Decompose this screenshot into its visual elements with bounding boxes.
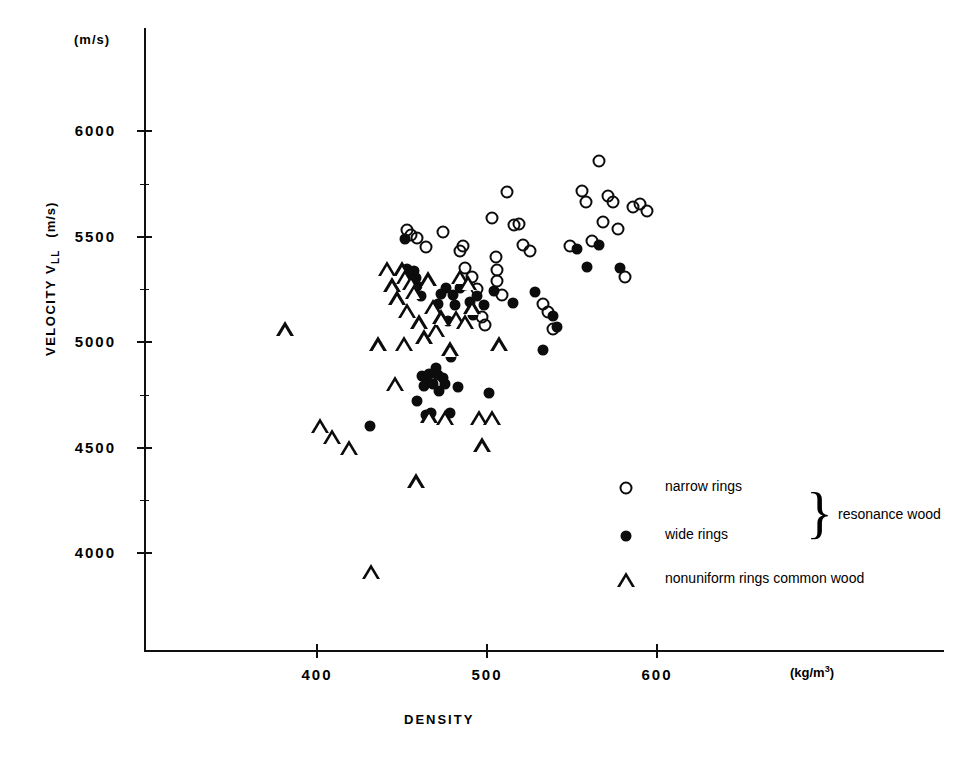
x-axis-line: [144, 650, 944, 652]
data-point-filled-circle: [582, 262, 593, 273]
legend: narrow rings wide rings nonuniform rings…: [620, 478, 950, 598]
data-point-filled-circle: [483, 387, 494, 398]
y-tick-4500: [137, 447, 152, 449]
data-point-open-circle: [436, 226, 449, 239]
data-point-filled-circle: [551, 322, 562, 333]
data-point-filled-circle: [364, 421, 375, 432]
x-axis-title: DENSITY: [404, 712, 474, 727]
data-point-filled-circle: [400, 233, 411, 244]
y-axis-title: VELOCITY VLL(m/s): [43, 154, 61, 404]
data-point-open-circle: [513, 218, 526, 231]
x-tick-500: [486, 644, 488, 658]
x-tick-label-400: 400: [301, 666, 332, 683]
x-tick-label-500: 500: [471, 666, 502, 683]
data-point-filled-circle: [538, 345, 549, 356]
legend-marker-open-circle-icon: [620, 482, 633, 495]
y-tick-5000: [137, 341, 152, 343]
legend-marker-filled-circle-icon: [621, 531, 632, 542]
x-tick-400: [316, 644, 318, 658]
y-tick-label-4500: 4500: [46, 439, 116, 456]
data-point-open-circle: [501, 186, 514, 199]
data-point-open-circle: [593, 155, 606, 168]
y-axis-title-subscript: LL: [50, 250, 61, 264]
data-point-open-circle: [640, 205, 653, 218]
data-point-filled-circle: [614, 263, 625, 274]
y-tick-label-6000: 6000: [46, 122, 116, 139]
y-minor-tick-5750: [140, 184, 149, 185]
legend-label-narrow-rings: narrow rings: [665, 478, 742, 494]
data-point-filled-circle: [548, 311, 559, 322]
data-point-open-circle: [486, 211, 499, 224]
x-axis-unit: (kg/m3): [790, 664, 834, 680]
y-tick-label-5000: 5000: [46, 333, 116, 350]
data-point-open-circle: [596, 215, 609, 228]
y-axis-line: [144, 28, 146, 652]
legend-label-wide-rings: wide rings: [665, 526, 728, 542]
x-tick-label-600: 600: [641, 666, 672, 683]
y-tick-5500: [137, 236, 152, 238]
data-point-open-circle: [611, 222, 624, 235]
data-point-filled-circle: [439, 379, 450, 390]
data-point-filled-circle: [453, 381, 464, 392]
data-point-filled-circle: [449, 299, 460, 310]
data-point-filled-circle: [488, 286, 499, 297]
x-axis-unit-text: (kg/m: [790, 665, 825, 680]
y-axis-unit-top: (m/s): [74, 32, 110, 47]
y-minor-tick-5250: [140, 289, 149, 290]
data-point-open-circle: [523, 245, 536, 258]
y-tick-label-5500: 5500: [46, 228, 116, 245]
y-minor-tick-4250: [140, 500, 149, 501]
y-tick-label-4000: 4000: [46, 544, 116, 561]
scatter-plot-figure: (m/s) VELOCITY VLL(m/s) DENSITY (kg/m3) …: [0, 0, 957, 759]
legend-brace-icon: }: [806, 482, 828, 548]
data-point-open-circle: [419, 241, 432, 254]
data-point-open-circle: [489, 250, 502, 263]
y-tick-4000: [137, 552, 152, 554]
data-point-filled-circle: [572, 243, 583, 254]
data-point-filled-circle: [412, 396, 423, 407]
data-point-open-circle: [606, 195, 619, 208]
x-axis-unit-close: ): [830, 665, 834, 680]
data-point-filled-circle: [594, 239, 605, 250]
x-tick-600: [656, 644, 658, 658]
data-point-open-circle: [479, 318, 492, 331]
data-point-filled-circle: [529, 286, 540, 297]
y-minor-tick-4750: [140, 395, 149, 396]
y-tick-6000: [137, 130, 152, 132]
legend-group-label-resonance-wood: resonance wood: [838, 506, 941, 522]
data-point-open-circle: [457, 239, 470, 252]
data-point-filled-circle: [507, 297, 518, 308]
data-point-open-circle: [579, 195, 592, 208]
legend-label-nonuniform-rings: nonuniform rings common wood: [665, 570, 864, 586]
